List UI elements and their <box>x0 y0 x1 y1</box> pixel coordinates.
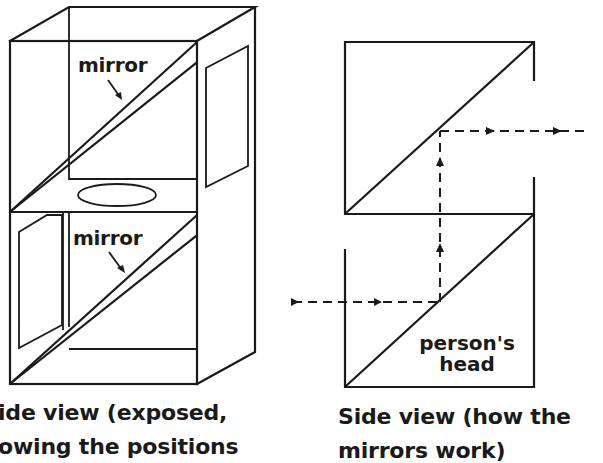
upper-mirror-line <box>346 43 533 213</box>
right-caption-line2: mirrors work) <box>338 440 505 462</box>
arrow-right-icon <box>374 298 382 306</box>
upper-mirror-label: mirror <box>78 55 147 75</box>
arrow-right-icon <box>553 127 562 135</box>
box-right-edge <box>197 7 255 384</box>
arrow-up-icon <box>436 243 444 252</box>
lower-mirror-label: mirror <box>73 228 142 248</box>
box-top-face <box>10 7 255 41</box>
arrow-up-icon <box>436 157 444 166</box>
upper-mirror-back <box>11 63 196 211</box>
side-window-upper <box>206 46 248 187</box>
front-window-lower <box>19 215 62 348</box>
head-label-line2: head <box>412 354 522 375</box>
arrow-right-icon <box>486 127 495 135</box>
left-caption-line2: owing the positions <box>0 436 238 458</box>
arrow-right-icon <box>291 298 299 306</box>
persons-head-label: person's head <box>412 333 522 375</box>
head-label-line1: person's <box>412 333 522 354</box>
right-caption-line1: Side view (how the <box>338 406 571 428</box>
lower-mirror-back <box>11 236 196 383</box>
left-caption-line1: ide view (exposed, <box>0 402 227 424</box>
eyehole-ellipse <box>78 184 156 206</box>
upper-mirror-arrowhead <box>115 92 122 100</box>
